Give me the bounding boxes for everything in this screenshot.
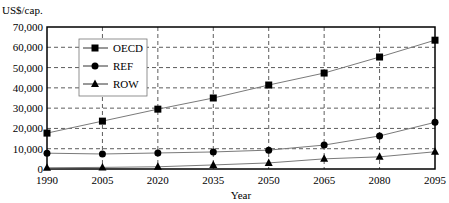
- circle-marker-icon: [44, 150, 51, 157]
- circle-legend-icon: [92, 63, 99, 70]
- y-tick-label: 10,000: [13, 143, 44, 155]
- square-marker-icon: [432, 37, 439, 44]
- line-chart: US$/cap. 010,00020,00030,00040,00050,000…: [0, 0, 449, 203]
- circle-marker-icon: [99, 150, 106, 157]
- y-tick-label: 70,000: [13, 21, 44, 33]
- square-marker-icon: [210, 95, 217, 102]
- y-tick-label: 40,000: [13, 82, 44, 94]
- square-marker-icon: [265, 82, 272, 89]
- x-axis-title: Year: [231, 189, 252, 201]
- y-tick-label: 30,000: [13, 102, 44, 114]
- series-ref: [44, 119, 439, 158]
- y-tick-label: 60,000: [13, 41, 44, 53]
- triangle-marker-icon: [43, 163, 51, 171]
- circle-marker-icon: [265, 147, 272, 154]
- circle-marker-icon: [376, 132, 383, 139]
- circle-marker-icon: [432, 119, 439, 126]
- x-axis-ticks: 19902005202020352050206520802095: [36, 174, 447, 186]
- x-tick-label: 2065: [313, 174, 336, 186]
- x-tick-label: 2095: [424, 174, 447, 186]
- square-marker-icon: [376, 54, 383, 61]
- square-marker-icon: [99, 118, 106, 125]
- square-marker-icon: [321, 70, 328, 77]
- legend-label: REF: [113, 60, 133, 72]
- series-line: [47, 122, 435, 154]
- triangle-marker-icon: [154, 162, 162, 170]
- square-marker-icon: [154, 106, 161, 113]
- circle-marker-icon: [154, 149, 161, 156]
- square-legend-icon: [92, 45, 99, 52]
- x-tick-label: 2080: [369, 174, 392, 186]
- legend-label: ROW: [113, 78, 139, 90]
- x-tick-label: 2020: [147, 174, 170, 186]
- square-marker-icon: [44, 130, 51, 137]
- triangle-marker-icon: [98, 163, 106, 171]
- y-axis-ticks: 010,00020,00030,00040,00050,00060,00070,…: [13, 21, 44, 175]
- circle-marker-icon: [321, 142, 328, 149]
- legend: OECDREFROW: [79, 39, 147, 96]
- x-tick-label: 2005: [91, 174, 114, 186]
- triangle-marker-icon: [265, 158, 273, 166]
- legend-label: OECD: [113, 42, 143, 54]
- x-tick-label: 2035: [202, 174, 225, 186]
- triangle-marker-icon: [320, 154, 328, 162]
- triangle-marker-icon: [209, 160, 217, 168]
- y-tick-label: 20,000: [13, 122, 44, 134]
- x-tick-label: 2050: [258, 174, 281, 186]
- y-tick-label: 50,000: [13, 62, 44, 74]
- x-tick-label: 1990: [36, 174, 59, 186]
- y-axis-unit-label: US$/cap.: [2, 4, 43, 16]
- circle-marker-icon: [210, 148, 217, 155]
